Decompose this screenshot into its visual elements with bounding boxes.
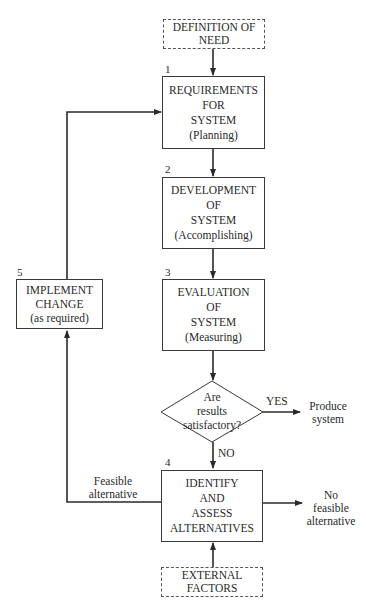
- node-text: CHANGE: [36, 297, 84, 311]
- node-text: EVALUATION: [178, 285, 250, 300]
- node-text: FOR: [202, 98, 224, 113]
- node-text: IMPLEMENT: [26, 283, 93, 297]
- node-text: IDENTIFY: [185, 476, 238, 491]
- node-text: (Planning): [189, 128, 238, 143]
- terminal-text: No: [302, 489, 360, 502]
- definition-of-need-box: DEFINITION OF NEED: [163, 19, 265, 49]
- node-text: FACTORS: [187, 582, 238, 595]
- node-text: (Accomplishing): [175, 228, 253, 243]
- step-number-2: 2: [165, 163, 171, 175]
- node-text: DEVELOPMENT: [171, 183, 256, 198]
- evaluation-of-system-box: EVALUATION OF SYSTEM (Measuring): [162, 279, 265, 351]
- no-feasible-alternative-terminal: No feasible alternative: [302, 489, 360, 528]
- no-label: NO: [218, 447, 235, 460]
- terminal-text: feasible: [302, 502, 360, 515]
- node-text: DEFINITION OF: [173, 21, 256, 34]
- step-number-3: 3: [165, 266, 171, 278]
- terminal-text: alternative: [302, 515, 360, 528]
- step-number-5: 5: [17, 266, 23, 278]
- edge-text: Feasible: [78, 475, 148, 488]
- node-text: AND: [200, 491, 225, 506]
- requirements-for-system-box: REQUIREMENTS FOR SYSTEM (Planning): [162, 76, 265, 149]
- node-text: EXTERNAL: [182, 569, 243, 582]
- step-number-4: 4: [165, 456, 171, 468]
- node-text: NEED: [199, 34, 230, 47]
- produce-system-terminal: Produce system: [303, 400, 353, 426]
- node-text: ALTERNATIVES: [170, 521, 254, 536]
- development-of-system-box: DEVELOPMENT OF SYSTEM (Accomplishing): [162, 177, 265, 249]
- edge-text: alternative: [78, 488, 148, 501]
- node-text: SYSTEM: [191, 315, 236, 330]
- node-text: ASSESS: [192, 506, 233, 521]
- external-factors-box: EXTERNAL FACTORS: [161, 567, 263, 597]
- node-text: SYSTEM: [191, 213, 236, 228]
- node-text: satisfactory?: [162, 418, 262, 432]
- node-text: (as required): [30, 311, 88, 325]
- node-text: REQUIREMENTS: [169, 83, 258, 98]
- terminal-text: system: [303, 413, 353, 426]
- node-text: (Measuring): [185, 330, 242, 345]
- decision-text: Are results satisfactory?: [162, 390, 262, 432]
- feasible-alternative-label: Feasible alternative: [78, 475, 148, 501]
- node-text: OF: [206, 300, 221, 315]
- identify-assess-alternatives-box: IDENTIFY AND ASSESS ALTERNATIVES: [161, 470, 263, 542]
- implement-change-box: IMPLEMENT CHANGE (as required): [16, 279, 103, 329]
- terminal-text: Produce: [303, 400, 353, 413]
- node-text: OF: [206, 198, 221, 213]
- node-text: SYSTEM: [191, 113, 236, 128]
- step-number-1: 1: [165, 63, 171, 75]
- node-text: Are: [162, 390, 262, 404]
- node-text: results: [162, 404, 262, 418]
- yes-label: YES: [266, 395, 288, 408]
